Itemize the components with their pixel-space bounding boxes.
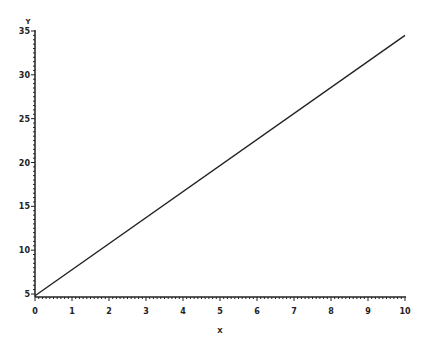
y-tick-label: 10 <box>19 246 31 255</box>
x-tick-label: 7 <box>291 307 297 316</box>
x-tick-label: 3 <box>143 307 149 316</box>
x-tick-label: 1 <box>69 307 75 316</box>
x-tick-label: 5 <box>217 307 223 316</box>
y-tick-label: 25 <box>19 115 31 124</box>
x-axis: 012345678910 <box>32 297 411 316</box>
y-tick-label: 15 <box>19 202 31 211</box>
x-tick-label: 10 <box>399 307 411 316</box>
x-tick-label: 6 <box>254 307 260 316</box>
y-axis-title: Y <box>24 18 31 26</box>
series-line <box>35 35 405 295</box>
x-axis-title: X <box>217 327 223 335</box>
y-axis: 5101520253035 <box>19 27 35 299</box>
x-tick-label: 2 <box>106 307 112 316</box>
line-chart: 5101520253035 012345678910 Y X <box>0 0 425 350</box>
y-tick-label: 20 <box>19 159 31 168</box>
data-series <box>35 35 405 295</box>
x-tick-label: 8 <box>328 307 334 316</box>
y-tick-label: 30 <box>19 71 31 80</box>
y-tick-label: 35 <box>19 27 31 36</box>
x-tick-label: 9 <box>365 307 371 316</box>
x-tick-label: 0 <box>32 307 38 316</box>
y-tick-label: 5 <box>24 290 30 299</box>
x-tick-label: 4 <box>180 307 186 316</box>
